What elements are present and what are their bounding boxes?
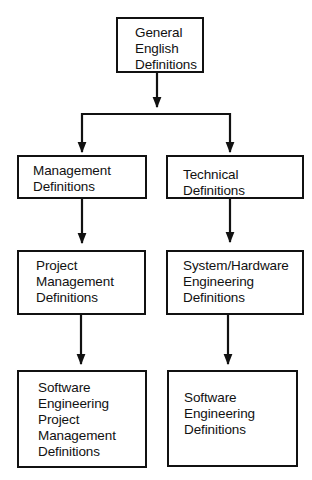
node-label-line: Management <box>38 428 145 444</box>
node-label-line: Definitions <box>183 290 302 306</box>
node-software-engineering-project-management-definitions: Software Engineering Project Management … <box>17 370 147 468</box>
node-label-line: Software <box>184 390 296 406</box>
node-label-line: Engineering <box>183 274 302 290</box>
node-general-english-definitions: General English Definitions <box>116 17 204 73</box>
node-label-line: Project <box>36 258 144 274</box>
node-label-line: System/Hardware <box>183 258 302 274</box>
node-label-line: Software <box>38 380 145 396</box>
node-label-line: Definitions <box>38 444 145 460</box>
node-label-line: Management <box>33 163 145 179</box>
node-label-line: Definitions <box>33 179 145 195</box>
node-label-line: Engineering <box>38 396 145 412</box>
node-project-management-definitions: Project Management Definitions <box>17 250 146 315</box>
node-label-line: Technical <box>183 167 302 183</box>
node-label-line: Project <box>38 412 145 428</box>
node-label-line: Engineering <box>184 406 296 422</box>
definitions-hierarchy-diagram: General English Definitions Management D… <box>0 0 312 480</box>
node-label-line: Definitions <box>36 290 144 306</box>
node-management-definitions: Management Definitions <box>17 155 147 199</box>
node-software-engineering-definitions: Software Engineering Definitions <box>167 370 298 467</box>
node-label-line: General <box>135 25 202 41</box>
node-label-line: Definitions <box>184 422 296 438</box>
node-label-line: Definitions <box>135 57 202 73</box>
node-technical-definitions: Technical Definitions <box>166 155 304 199</box>
node-label-line: Management <box>36 274 144 290</box>
node-system-hardware-engineering-definitions: System/Hardware Engineering Definitions <box>166 250 304 315</box>
node-label-line: Definitions <box>183 183 302 199</box>
node-label-line: English <box>135 41 202 57</box>
